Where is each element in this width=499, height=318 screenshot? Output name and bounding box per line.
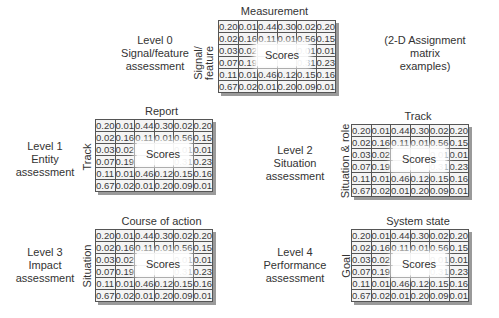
matrix-cell: 0.02 <box>96 242 116 254</box>
matrix-cell: 0.01 <box>371 230 391 242</box>
level-2-label: Level 2 Situation assessment <box>260 144 330 183</box>
matrix-cell: 0.16 <box>193 168 213 180</box>
matrix-cell: 0.01 <box>277 33 297 45</box>
matrix-row: 0.020.160.110.010.560.15 <box>96 242 213 254</box>
matrix-cell: 0.01 <box>115 168 135 180</box>
matrix-cell: 0.20 <box>193 230 213 242</box>
scores-overlay: Scores <box>393 253 445 275</box>
matrix-cell: 0.67 <box>352 290 372 302</box>
matrix-cell: 0.07 <box>219 57 239 69</box>
level-number: Level 1 <box>10 140 80 153</box>
matrix-cell: 0.03 <box>219 45 239 57</box>
matrix-row: 0.020.160.110.010.560.15 <box>352 137 469 149</box>
matrix-cell: 0.11 <box>258 33 278 45</box>
matrix-cell: 0.01 <box>391 185 411 197</box>
matrix-cell: 0.20 <box>193 120 213 132</box>
matrix-cell: 0.01 <box>371 125 391 137</box>
matrix-cell: 0.16 <box>238 33 258 45</box>
matrix-cell: 0.20 <box>410 290 430 302</box>
matrix-row: 0.670.020.010.200.090.01 <box>219 81 336 93</box>
matrix-cell: 0.16 <box>316 69 336 81</box>
matrix-cell: 0.02 <box>174 230 194 242</box>
matrix-cell: 0.11 <box>352 173 372 185</box>
matrix-row: 0.200.010.440.300.020.20 <box>96 230 213 242</box>
level-4-label: Level 4 Performance assessment <box>260 246 330 285</box>
matrix-cell: 0.16 <box>193 278 213 290</box>
matrix-cell: 0.01 <box>193 180 213 192</box>
matrix-cell: 0.01 <box>371 278 391 290</box>
matrix-cell: 0.15 <box>174 168 194 180</box>
matrix-cell: 0.11 <box>391 242 411 254</box>
matrix-cell: 0.02 <box>430 230 450 242</box>
matrix-cell: 0.56 <box>174 132 194 144</box>
matrix-cell: 0.15 <box>174 278 194 290</box>
matrix-cell: 0.19 <box>115 266 135 278</box>
matrix-cell: 0.20 <box>96 230 116 242</box>
matrix-cell: 0.01 <box>238 69 258 81</box>
matrix-cell: 0.20 <box>410 185 430 197</box>
matrix-cell: 0.03 <box>96 144 116 156</box>
matrix-row: 0.110.010.460.120.150.16 <box>219 69 336 81</box>
matrix-cell: 0.01 <box>391 290 411 302</box>
matrix-cell: 0.67 <box>96 290 116 302</box>
matrix-cell: 0.02 <box>238 81 258 93</box>
matrix-cell: 0.44 <box>135 230 155 242</box>
matrix-cell: 0.11 <box>352 278 372 290</box>
matrix-cell: 0.11 <box>219 69 239 81</box>
matrix-cell: 0.01 <box>449 149 469 161</box>
matrix-cell: 0.01 <box>135 180 155 192</box>
level-name: Entity <box>10 153 80 166</box>
matrix-cell: 0.46 <box>258 69 278 81</box>
matrix-cell: 0.01 <box>410 137 430 149</box>
matrix-cell: 0.67 <box>96 180 116 192</box>
matrix-cell: 0.12 <box>410 278 430 290</box>
matrix-cell: 0.01 <box>449 254 469 266</box>
matrix-cell: 0.01 <box>154 132 174 144</box>
matrix-cell: 0.30 <box>410 230 430 242</box>
matrix-cell: 0.23 <box>193 266 213 278</box>
matrix-cell: 0.02 <box>219 33 239 45</box>
matrix-row: 0.670.020.010.200.090.01 <box>352 290 469 302</box>
level-name-suffix: assessment <box>260 272 330 285</box>
matrix-cell: 0.44 <box>391 230 411 242</box>
matrix-cell: 0.11 <box>96 278 116 290</box>
scores-overlay: Scores <box>393 148 445 170</box>
matrix-cell: 0.15 <box>430 278 450 290</box>
matrix-cell: 0.44 <box>391 125 411 137</box>
matrix-cell: 0.15 <box>193 132 213 144</box>
matrix-cell: 0.15 <box>449 137 469 149</box>
matrix-cell: 0.02 <box>371 149 391 161</box>
matrix-cell: 0.09 <box>430 185 450 197</box>
matrix-cell: 0.01 <box>193 254 213 266</box>
column-axis-title: Report <box>95 105 228 117</box>
matrix-cell: 0.01 <box>115 278 135 290</box>
matrix-cell: 0.02 <box>115 144 135 156</box>
level-number: Level 2 <box>260 144 330 157</box>
matrix-cell: 0.30 <box>154 230 174 242</box>
matrix-cell: 0.02 <box>430 125 450 137</box>
row-axis-title: Situation <box>81 237 93 295</box>
matrix-cell: 0.20 <box>352 125 372 137</box>
matrix-cell: 0.11 <box>391 137 411 149</box>
matrix-cell: 0.15 <box>316 33 336 45</box>
matrix-cell: 0.56 <box>297 33 317 45</box>
matrix-cell: 0.01 <box>316 81 336 93</box>
matrix-cell: 0.20 <box>316 21 336 33</box>
level-name: Performance <box>260 259 330 272</box>
matrix-cell: 0.01 <box>135 290 155 302</box>
matrix-cell: 0.16 <box>115 242 135 254</box>
matrix-cell: 0.20 <box>154 180 174 192</box>
matrix-cell: 0.56 <box>174 242 194 254</box>
matrix-row: 0.110.010.460.120.150.16 <box>352 278 469 290</box>
matrix-cell: 0.07 <box>352 161 372 173</box>
assignment-matrix-note: (2-D Assignment matrix examples) <box>370 34 480 73</box>
level-name: Situation <box>260 157 330 170</box>
matrix-cell: 0.16 <box>371 242 391 254</box>
matrix-cell: 0.46 <box>391 278 411 290</box>
row-axis-title: Track <box>81 132 93 182</box>
matrix-cell: 0.44 <box>258 21 278 33</box>
matrix-cell: 0.03 <box>96 254 116 266</box>
matrix-row: 0.200.010.440.300.020.20 <box>219 21 336 33</box>
note-line: (2-D Assignment <box>370 34 480 47</box>
matrix-cell: 0.01 <box>258 81 278 93</box>
